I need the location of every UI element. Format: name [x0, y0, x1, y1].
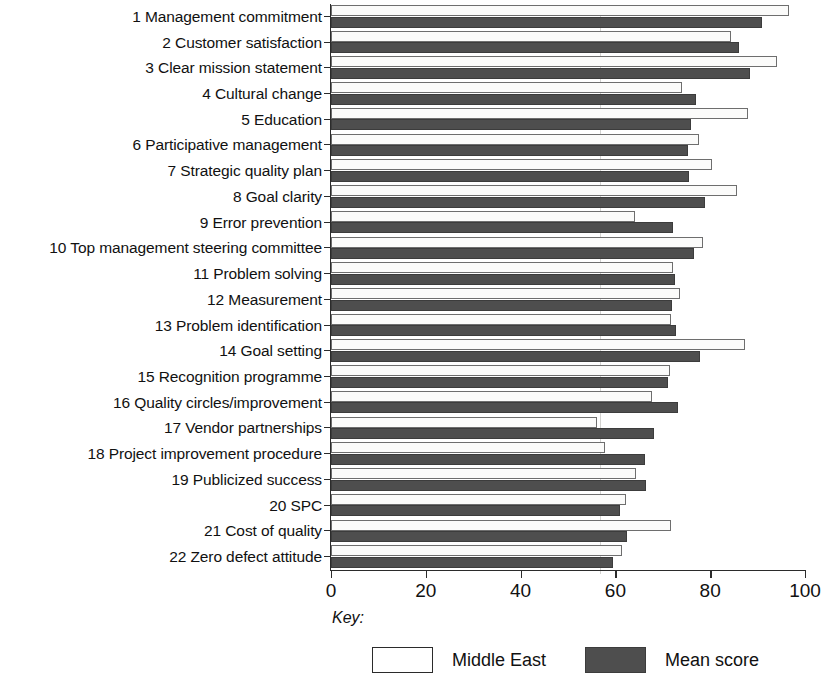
- bar-middle-east: [331, 134, 699, 145]
- category-tick: [324, 350, 331, 351]
- category-label: 7 Strategic quality plan: [168, 163, 322, 179]
- value-axis-tick-label: 100: [789, 581, 821, 600]
- value-axis-tick: [805, 570, 806, 578]
- bar-row: 12 Measurement: [331, 287, 805, 313]
- legend-swatch-mean-score: [585, 647, 646, 673]
- bar-mean-score: [331, 145, 688, 156]
- legend-label-mean-score: Mean score: [665, 650, 759, 671]
- bar-mean-score: [331, 119, 691, 130]
- bar-row: 13 Problem identification: [331, 313, 805, 339]
- value-axis-tick-label: 40: [510, 581, 531, 600]
- category-label: 9 Error prevention: [200, 215, 322, 231]
- bar-row: 4 Cultural change: [331, 81, 805, 107]
- bar-mean-score: [331, 68, 750, 79]
- bar-mean-score: [331, 171, 689, 182]
- bar-row: 8 Goal clarity: [331, 184, 805, 210]
- category-tick: [324, 505, 331, 506]
- category-label: 3 Clear mission statement: [145, 60, 322, 76]
- category-tick: [324, 119, 331, 120]
- category-label: 15 Recognition programme: [137, 369, 322, 385]
- bar-middle-east: [331, 5, 789, 16]
- category-label: 6 Participative management: [132, 137, 322, 153]
- category-tick: [324, 16, 331, 17]
- category-label: 13 Problem identification: [155, 318, 322, 334]
- category-label: 12 Measurement: [207, 292, 322, 308]
- bar-middle-east: [331, 56, 777, 67]
- legend: Middle East Mean score: [332, 645, 802, 677]
- legend-swatch-middle-east: [372, 647, 433, 673]
- bar-row: 11 Problem solving: [331, 261, 805, 287]
- bar-middle-east: [331, 82, 682, 93]
- category-label: 18 Project improvement procedure: [87, 446, 322, 462]
- legend-item-middle-east: Middle East: [372, 645, 546, 675]
- bar-middle-east: [331, 494, 626, 505]
- bar-mean-score: [331, 300, 672, 311]
- value-axis-tick-label: 60: [605, 581, 626, 600]
- bar-middle-east: [331, 262, 673, 273]
- bar-middle-east: [331, 442, 605, 453]
- bar-middle-east: [331, 237, 703, 248]
- key-title: Key:: [332, 609, 364, 627]
- category-tick: [324, 247, 331, 248]
- category-label: 22 Zero defect attitude: [169, 549, 322, 565]
- bar-row: 22 Zero defect attitude: [331, 544, 805, 570]
- bar-row: 7 Strategic quality plan: [331, 158, 805, 184]
- bar-middle-east: [331, 185, 737, 196]
- bar-middle-east: [331, 288, 680, 299]
- category-tick: [324, 427, 331, 428]
- bar-mean-score: [331, 17, 762, 28]
- value-axis-tick: [331, 570, 332, 578]
- bar-middle-east: [331, 211, 635, 222]
- bar-middle-east: [331, 468, 636, 479]
- horizontal-bar-chart: 1 Management commitment2 Customer satisf…: [0, 0, 827, 689]
- bar-row: 17 Vendor partnerships: [331, 416, 805, 442]
- category-label: 2 Customer satisfaction: [162, 35, 322, 51]
- category-label: 5 Education: [241, 112, 322, 128]
- category-tick: [324, 170, 331, 171]
- bar-mean-score: [331, 454, 645, 465]
- bar-middle-east: [331, 545, 622, 556]
- category-tick: [324, 42, 331, 43]
- bar-row: 10 Top management steering committee: [331, 236, 805, 262]
- bar-mean-score: [331, 480, 646, 491]
- value-axis-tick-label: 20: [415, 581, 436, 600]
- bar-middle-east: [331, 365, 670, 376]
- bar-row: 21 Cost of quality: [331, 519, 805, 545]
- category-label: 16 Quality circles/improvement: [113, 395, 322, 411]
- plot-area: 1 Management commitment2 Customer satisf…: [331, 4, 805, 570]
- category-tick: [324, 299, 331, 300]
- bar-row: 5 Education: [331, 107, 805, 133]
- category-tick: [324, 479, 331, 480]
- bar-middle-east: [331, 31, 731, 42]
- value-axis-tick-label: 0: [326, 581, 337, 600]
- category-label: 1 Management commitment: [132, 9, 322, 25]
- bar-middle-east: [331, 391, 652, 402]
- category-tick: [324, 196, 331, 197]
- bar-row: 19 Publicized success: [331, 467, 805, 493]
- value-axis-tick-label: 80: [700, 581, 721, 600]
- bar-row: 9 Error prevention: [331, 210, 805, 236]
- bar-mean-score: [331, 531, 627, 542]
- category-tick: [324, 453, 331, 454]
- bar-mean-score: [331, 325, 676, 336]
- bar-mean-score: [331, 557, 613, 568]
- category-label: 20 SPC: [269, 498, 322, 514]
- category-label: 10 Top management steering committee: [49, 240, 322, 256]
- category-label: 8 Goal clarity: [233, 189, 322, 205]
- category-tick: [324, 325, 331, 326]
- category-tick: [324, 273, 331, 274]
- bar-row: 15 Recognition programme: [331, 364, 805, 390]
- bar-mean-score: [331, 42, 739, 53]
- legend-label-middle-east: Middle East: [452, 650, 546, 671]
- bar-mean-score: [331, 197, 705, 208]
- bar-mean-score: [331, 428, 654, 439]
- category-label: 14 Goal setting: [219, 343, 322, 359]
- category-tick: [324, 402, 331, 403]
- bar-mean-score: [331, 94, 696, 105]
- bar-rows: 1 Management commitment2 Customer satisf…: [331, 4, 805, 570]
- category-tick: [324, 222, 331, 223]
- value-axis-tick: [710, 570, 711, 578]
- category-label: 4 Cultural change: [202, 86, 322, 102]
- bar-mean-score: [331, 222, 673, 233]
- category-label: 21 Cost of quality: [204, 523, 322, 539]
